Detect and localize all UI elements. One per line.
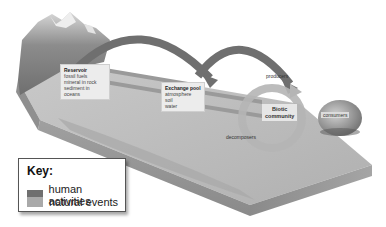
exchange-pool-box: Exchange pool atmosphere soil water: [161, 82, 205, 112]
key-item-label: natural events: [49, 196, 118, 208]
reservoir-item: sediment in oceans: [64, 85, 106, 97]
reservoir-box: Reservoir fossil fuels mineral in rock s…: [60, 64, 110, 100]
key-item-natural-events: natural events: [27, 196, 118, 208]
biotic-line2: community: [265, 113, 294, 120]
exchange-pool-item: water: [165, 103, 201, 109]
producers-label: producers: [266, 73, 288, 79]
legend-key: Key: human activities natural events: [18, 158, 126, 212]
consumers-label: consumers: [321, 112, 349, 118]
natural-events-swatch: [27, 197, 43, 207]
key-title: Key:: [27, 164, 53, 178]
biotic-community-label: Biotic community: [262, 104, 297, 121]
biogeochemical-cycle-diagram: Reservoir fossil fuels mineral in rock s…: [0, 0, 386, 227]
bush-illustration: [318, 100, 362, 136]
decomposers-label: decomposers: [226, 134, 256, 140]
